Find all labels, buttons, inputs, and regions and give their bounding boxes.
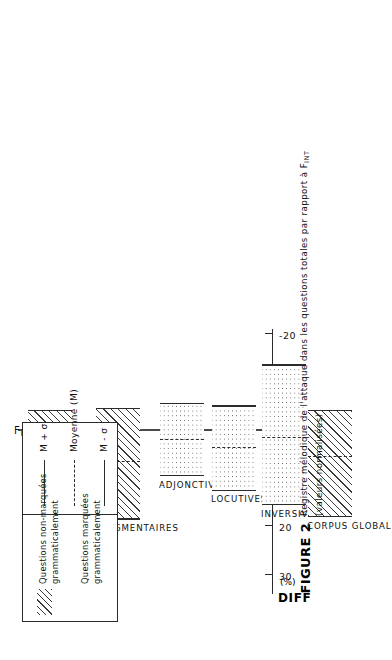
legend-line-entry: Moyenne (M) [69,389,79,506]
axis-unit: (%) [280,577,296,587]
bar-locutives [212,406,256,490]
legend-dashed-rule-icon [74,460,75,506]
axis-tick [265,574,272,575]
m-minus-sigma-cap [160,403,204,404]
legend: Questions non-marquéesgrammaticalementQu… [22,422,118,622]
axis-tick-label: -20 [279,330,296,341]
legend-line-entry: M - σ [99,428,109,506]
bar-fill [212,406,256,490]
caption-line-1: Registre mélodique de l'attaque dans les… [299,163,309,516]
bar-category-label: LOCUTIVES [211,494,267,504]
axis-tick [265,525,272,526]
m-minus-sigma-cap [28,410,72,411]
legend-patterns-column: Questions non-marquéesgrammaticalementQu… [23,514,117,621]
legend-stipple-swatch-icon [79,589,94,615]
figure-caption-text: Registre mélodique de l'attaque dans les… [298,151,326,516]
m-plus-sigma-cap [160,475,204,476]
caption-line-2: (valeurs normalisées) [313,151,326,516]
caption-line-1-sub: INT [303,151,311,163]
legend-line-entry: M + σ [39,423,49,506]
m-plus-sigma-cap [212,490,256,491]
axis-tick-label: 20 [279,522,292,533]
legend-solid-rule-icon [104,460,105,506]
mean-line [160,439,204,440]
legend-line-label: M + σ [39,423,49,452]
figure-number: FIGURE 2 [298,523,313,594]
legend-line-label: M - σ [99,428,109,452]
legend-line-label: Moyenne (M) [69,389,79,452]
legend-lines-column: M + σMoyenne (M)M - σ [23,423,117,514]
figure-caption: FIGURE 2Registre mélodique de l'attaque … [298,0,326,593]
legend-solid-rule-icon [44,460,45,506]
mean-line [212,447,256,448]
m-minus-sigma-cap [212,405,256,406]
axis-title: DIFF [278,591,311,605]
m-minus-sigma-cap [96,408,140,409]
legend-hatch-swatch-icon [37,589,52,615]
axis-tick [265,333,272,334]
